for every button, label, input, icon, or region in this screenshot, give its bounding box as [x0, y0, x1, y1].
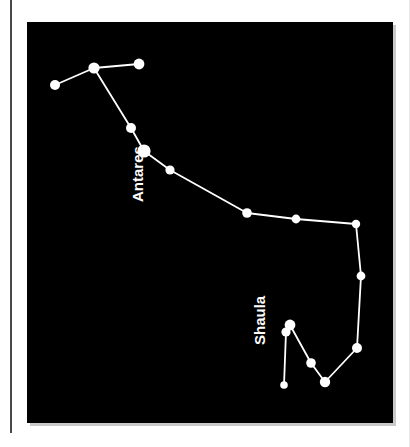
star-marker	[134, 59, 145, 70]
star-labels: AntaresShaula	[129, 146, 268, 345]
constellation-line	[357, 276, 361, 348]
star-label-antares: Antares	[129, 146, 146, 202]
constellation-lines	[55, 64, 361, 385]
star-marker	[281, 327, 290, 336]
constellation-stars	[50, 59, 365, 389]
star-marker	[320, 377, 330, 387]
constellation-line	[170, 170, 247, 213]
page-canvas: AntaresShaula	[0, 0, 410, 447]
constellation-line	[247, 213, 296, 219]
star-marker	[50, 80, 60, 90]
constellation-line	[94, 64, 139, 68]
constellation-line	[296, 219, 356, 224]
star-marker	[126, 123, 136, 133]
star-marker	[242, 208, 252, 218]
star-label-shaula: Shaula	[251, 295, 268, 345]
constellation-chart-panel: AntaresShaula	[27, 22, 393, 423]
star-marker	[88, 62, 99, 73]
constellation-line	[325, 348, 357, 382]
constellation-line	[55, 68, 94, 85]
constellation-line	[290, 325, 311, 363]
star-marker	[357, 272, 366, 281]
left-margin-rule	[10, 0, 12, 433]
constellation-line	[356, 224, 361, 276]
star-marker	[306, 358, 316, 368]
star-marker	[280, 381, 288, 389]
star-marker	[352, 220, 360, 228]
constellation-line	[284, 332, 286, 385]
constellation-line	[94, 68, 131, 128]
star-marker	[292, 215, 301, 224]
star-marker	[352, 343, 362, 353]
star-marker	[165, 165, 174, 174]
constellation-svg: AntaresShaula	[27, 22, 393, 423]
